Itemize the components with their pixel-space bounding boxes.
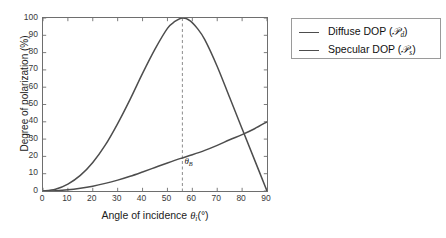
- x-tick-label: 50: [155, 194, 177, 203]
- x-tick-label: 60: [180, 194, 202, 203]
- x-tick-label: 80: [230, 194, 252, 203]
- curve-specular-dop: [43, 18, 267, 191]
- x-tick-label: 90: [255, 194, 277, 203]
- x-tick-label: 70: [205, 194, 227, 203]
- legend-line-icon-specular: [299, 50, 319, 51]
- plot-canvas: [43, 18, 267, 191]
- brewster-angle-label: θB: [184, 156, 192, 167]
- legend-label-specular: Specular DOP (𝒫s): [328, 43, 416, 57]
- legend-box: Diffuse DOP (𝒫d) Specular DOP (𝒫s): [291, 18, 441, 59]
- tick-marks-group: [43, 18, 267, 191]
- legend-specular-suffix: ): [412, 43, 416, 55]
- brewster-subscript: B: [189, 160, 193, 167]
- x-tick-label: 0: [31, 194, 53, 203]
- legend-label-diffuse: Diffuse DOP (𝒫d): [328, 25, 408, 39]
- x-tick-label: 20: [81, 194, 103, 203]
- x-tick-label: 30: [106, 194, 128, 203]
- x-axis-title: Angle of incidence θi(°): [0, 209, 310, 223]
- legend-item-specular[interactable]: Specular DOP (𝒫s): [292, 41, 440, 59]
- curve-diffuse-dop: [43, 122, 267, 191]
- x-axis-title-unit: (°): [197, 209, 208, 221]
- x-axis-title-main: Angle of incidence: [101, 209, 190, 221]
- legend-specular-prefix: Specular DOP (: [328, 43, 401, 55]
- x-tick-label: 40: [131, 194, 153, 203]
- legend-line-icon-diffuse: [299, 32, 319, 33]
- legend-item-diffuse[interactable]: Diffuse DOP (𝒫d): [292, 23, 440, 41]
- y-tick-label: 0: [12, 186, 38, 195]
- legend-diffuse-suffix: ): [404, 25, 408, 37]
- plot-area: [42, 17, 268, 192]
- y-axis-title: Degree of polarization (%): [19, 4, 30, 184]
- legend-diffuse-prefix: Diffuse DOP (: [328, 25, 392, 37]
- x-tick-label: 10: [56, 194, 78, 203]
- figure-container: 0102030405060708090100 01020304050607080…: [0, 0, 446, 238]
